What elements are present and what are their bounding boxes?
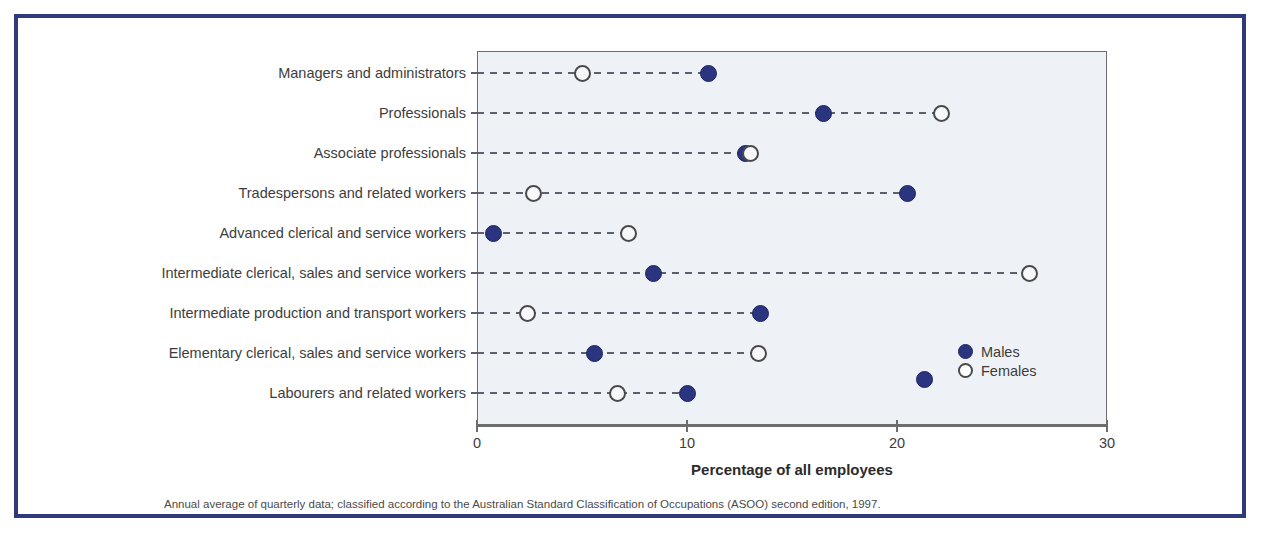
- data-point-male: [815, 105, 832, 122]
- category-label: Associate professionals: [37, 146, 477, 161]
- legend-label-females: Females: [981, 363, 1037, 379]
- category-label: Professionals: [37, 106, 477, 121]
- data-point-male: [645, 265, 662, 282]
- connector-line: [477, 392, 687, 394]
- connector-line: [477, 152, 750, 154]
- chart-footnote: Annual average of quarterly data; classi…: [164, 498, 881, 510]
- x-tick: [1106, 420, 1108, 432]
- data-point-female: [1021, 265, 1038, 282]
- x-axis-line: [477, 425, 1108, 427]
- data-point-female: [519, 305, 536, 322]
- category-label: Tradespersons and related workers: [37, 186, 477, 201]
- dot-plot-chart: Managers and administratorsProfessionals…: [18, 18, 1242, 514]
- data-point-female: [525, 185, 542, 202]
- figure-frame: Managers and administratorsProfessionals…: [14, 14, 1246, 518]
- data-point-male: [700, 65, 717, 82]
- connector-line: [477, 272, 1029, 274]
- data-point-female: [750, 345, 767, 362]
- data-point-male: [679, 385, 696, 402]
- category-label: Managers and administrators: [37, 66, 477, 81]
- connector-line: [477, 112, 941, 114]
- legend-entry-females: Females: [958, 361, 1037, 380]
- category-label: Advanced clerical and service workers: [37, 226, 477, 241]
- category-axis-labels: Managers and administratorsProfessionals…: [27, 51, 477, 425]
- x-tick-label: 20: [889, 435, 905, 451]
- category-label: Elementary clerical, sales and service w…: [37, 346, 477, 361]
- connector-line: [477, 352, 758, 354]
- x-axis-title: Percentage of all employees: [477, 461, 1107, 478]
- data-point-male: [586, 345, 603, 362]
- filled-circle-icon: [958, 344, 973, 359]
- data-point-male: [485, 225, 502, 242]
- x-tick: [896, 420, 898, 432]
- data-point-female: [742, 145, 759, 162]
- data-point-male: [752, 305, 769, 322]
- legend-entry-males: Males: [958, 342, 1037, 361]
- chart-legend: Males Females: [958, 342, 1037, 380]
- x-tick: [686, 420, 688, 432]
- x-tick-label: 0: [473, 435, 481, 451]
- x-tick-label: 10: [679, 435, 695, 451]
- category-label: Intermediate production and transport wo…: [37, 306, 477, 321]
- data-point-male: [899, 185, 916, 202]
- data-point-female: [933, 105, 950, 122]
- hollow-circle-icon: [958, 363, 973, 378]
- x-tick: [476, 420, 478, 432]
- data-point-female: [620, 225, 637, 242]
- legend-label-males: Males: [981, 344, 1020, 360]
- x-tick-label: 30: [1099, 435, 1115, 451]
- data-point-female: [609, 385, 626, 402]
- category-label: Labourers and related workers: [37, 386, 477, 401]
- data-point-male-stray: [916, 371, 933, 388]
- category-label: Intermediate clerical, sales and service…: [37, 266, 477, 281]
- connector-line: [477, 72, 708, 74]
- data-point-female: [574, 65, 591, 82]
